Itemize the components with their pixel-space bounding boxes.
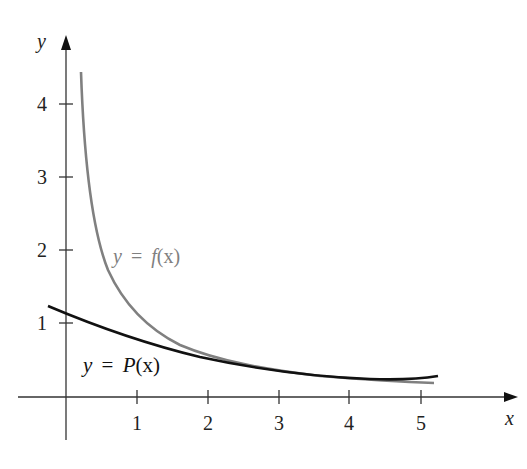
x-tick-label: 3 <box>274 412 284 434</box>
x-tick-label: 1 <box>132 412 142 434</box>
y-tick-label: 4 <box>37 93 47 115</box>
p-curve-label: y = P(x) <box>81 353 160 377</box>
x-tick-label: 2 <box>203 412 213 434</box>
x-tick-label: 4 <box>344 412 354 434</box>
y-tick-label: 2 <box>37 239 47 261</box>
x-axis-label: x <box>504 407 514 429</box>
f-curve-label: y = f(x) <box>111 245 180 268</box>
x-axis-arrow-icon <box>504 392 518 402</box>
x-tick-label: 5 <box>416 412 426 434</box>
y-axis-arrow-icon <box>61 35 71 50</box>
f-curve <box>81 72 434 383</box>
y-tick-label: 1 <box>37 312 47 334</box>
chart-canvas: 1 2 3 4 5 1 2 3 4 x y y = f(x) y = P(x) <box>0 0 527 469</box>
y-tick-label: 3 <box>37 166 47 188</box>
y-axis-label: y <box>35 30 46 53</box>
